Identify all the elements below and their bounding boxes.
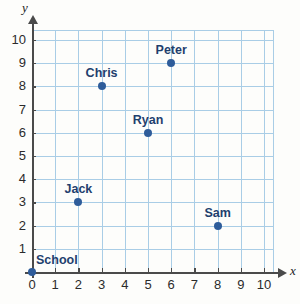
y-tick-label: 9 [4, 55, 26, 70]
y-tick-label: 8 [4, 78, 26, 93]
gridline-vertical [148, 30, 149, 272]
y-axis-label: y [22, 0, 28, 16]
gridline-vertical [218, 30, 219, 272]
x-tick-label: 5 [137, 277, 159, 292]
gridline-horizontal [32, 249, 273, 250]
y-axis-tick [32, 202, 36, 203]
y-tick-label: 2 [4, 218, 26, 233]
data-point-label: School [36, 253, 78, 267]
gridline-horizontal [32, 156, 273, 157]
x-axis-tick [102, 268, 103, 272]
y-axis-tick [32, 110, 36, 111]
data-point-dot[interactable] [28, 268, 36, 276]
x-axis-label: x [290, 263, 296, 279]
gridline-horizontal [32, 202, 273, 203]
y-axis-tick [32, 226, 36, 227]
y-tick-label: 4 [4, 171, 26, 186]
y-tick-label: 6 [4, 125, 26, 140]
x-axis-tick [55, 268, 56, 272]
data-point-dot[interactable] [167, 59, 175, 67]
data-point-dot[interactable] [214, 222, 222, 230]
x-axis-tick [218, 268, 219, 272]
data-point-label: Jack [38, 182, 118, 196]
gridline-horizontal [32, 110, 273, 111]
data-point-label: Chris [62, 66, 142, 80]
gridline-vertical [194, 30, 195, 272]
x-axis-tick [264, 268, 265, 272]
y-tick-label: 7 [4, 102, 26, 117]
gridline-vertical [273, 30, 274, 272]
y-tick-label: 5 [4, 148, 26, 163]
data-point-dot[interactable] [98, 82, 106, 90]
data-point-dot[interactable] [74, 198, 82, 206]
data-point-label: Peter [131, 43, 211, 57]
gridline-horizontal [32, 30, 273, 31]
y-axis-tick [32, 63, 36, 64]
x-tick-label: 8 [207, 277, 229, 292]
gridline-vertical [55, 30, 56, 272]
x-tick-label: 0 [21, 277, 43, 292]
gridline-horizontal [32, 63, 273, 64]
x-axis-tick [78, 268, 79, 272]
y-axis-tick [32, 156, 36, 157]
y-axis-line [32, 23, 34, 278]
y-axis-arrow-icon [28, 15, 38, 24]
gridline-vertical [241, 30, 242, 272]
x-tick-label: 4 [114, 277, 136, 292]
x-tick-label: 6 [160, 277, 182, 292]
gridline-horizontal [32, 179, 273, 180]
y-tick-label: 3 [4, 194, 26, 209]
x-axis-tick [241, 268, 242, 272]
x-axis-tick [171, 268, 172, 272]
x-tick-label: 3 [91, 277, 113, 292]
y-tick-label: 1 [4, 241, 26, 256]
gridline-horizontal [32, 133, 273, 134]
coordinate-plane-chart: 01234567891012345678910 x y SchoolJackCh… [0, 0, 300, 304]
gridline-horizontal [32, 40, 273, 41]
x-axis-arrow-icon [278, 268, 287, 278]
gridline-vertical [264, 30, 265, 272]
y-axis-tick [32, 179, 36, 180]
x-axis-tick [125, 268, 126, 272]
y-axis-tick [32, 249, 36, 250]
x-tick-label: 9 [230, 277, 252, 292]
y-tick-label: 10 [4, 32, 26, 47]
x-axis-line [25, 272, 278, 274]
x-axis-tick [194, 268, 195, 272]
gridline-horizontal [32, 86, 273, 87]
x-tick-label: 10 [253, 277, 275, 292]
data-point-dot[interactable] [144, 129, 152, 137]
y-axis-tick [32, 40, 36, 41]
x-tick-label: 2 [67, 277, 89, 292]
data-point-label: Ryan [108, 113, 188, 127]
y-axis-tick [32, 133, 36, 134]
x-axis-tick [148, 268, 149, 272]
x-tick-label: 7 [183, 277, 205, 292]
gridline-horizontal [32, 226, 273, 227]
x-tick-label: 1 [44, 277, 66, 292]
data-point-label: Sam [178, 206, 258, 220]
y-axis-tick [32, 86, 36, 87]
